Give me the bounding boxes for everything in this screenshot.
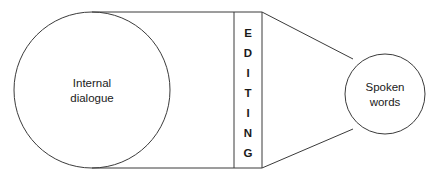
editing-letter-1: D xyxy=(244,47,252,59)
bottom-taper-line xyxy=(262,129,353,168)
top-taper-line xyxy=(262,12,353,59)
internal-dialogue-circle xyxy=(14,12,170,168)
spoken-words-circle xyxy=(345,54,425,134)
internal-dialogue-label-line1: Internal xyxy=(73,77,111,89)
diagram-svg: Internal dialogue Spoken words E D I T I… xyxy=(0,0,442,180)
editing-letter-0: E xyxy=(244,27,252,39)
editing-letter-6: G xyxy=(244,147,253,159)
spoken-words-label-line1: Spoken xyxy=(365,81,404,93)
diagram-canvas: Internal dialogue Spoken words E D I T I… xyxy=(0,0,442,180)
editing-letter-3: T xyxy=(244,87,251,99)
editing-letter-5: N xyxy=(244,127,252,139)
editing-letter-2: I xyxy=(246,67,249,79)
editing-letter-4: I xyxy=(246,107,249,119)
internal-dialogue-label-line2: dialogue xyxy=(70,92,113,104)
spoken-words-label-line2: words xyxy=(369,96,401,108)
